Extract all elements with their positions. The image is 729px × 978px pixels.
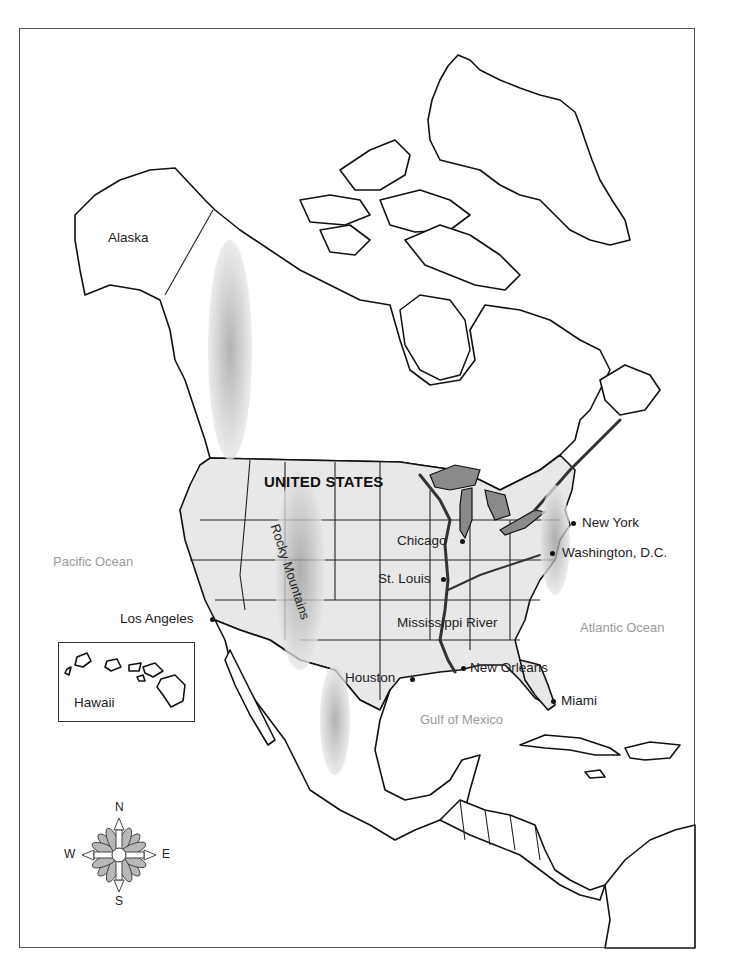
compass-west: W	[64, 847, 75, 861]
city-dot-st-louis	[441, 577, 446, 582]
city-los-angeles: Los Angeles	[120, 611, 194, 626]
arctic-island	[340, 140, 410, 190]
hawaii-islands	[59, 643, 196, 723]
baffin-island	[405, 225, 520, 290]
city-new-orleans: New Orleans	[470, 660, 548, 675]
arctic-island	[380, 190, 470, 232]
arctic-island	[300, 195, 370, 225]
united-states-label: UNITED STATES	[264, 473, 384, 490]
alaska-label: Alaska	[108, 230, 149, 245]
mississippi-river-label: Mississippi River	[397, 615, 498, 630]
compass-east: E	[162, 847, 170, 861]
city-dot-washington-dc	[550, 551, 555, 556]
city-dot-new-orleans	[461, 666, 466, 671]
pacific-ocean-label: Pacific Ocean	[53, 554, 133, 569]
gulf-of-mexico-label: Gulf of Mexico	[420, 712, 503, 727]
city-houston: Houston	[345, 670, 395, 685]
hawaii-label: Hawaii	[74, 695, 115, 710]
appalachians-shading	[540, 485, 570, 595]
arctic-island	[320, 225, 370, 255]
city-miami: Miami	[561, 693, 597, 708]
compass-south: S	[115, 894, 123, 908]
city-new-york: New York	[582, 515, 639, 530]
rocky-mountains-shading	[208, 240, 252, 460]
city-dot-miami	[551, 699, 556, 704]
city-dot-new-york	[571, 521, 576, 526]
central-america	[440, 800, 605, 900]
south-america	[605, 825, 695, 948]
compass-rose: N S W E	[64, 800, 174, 910]
city-dot-houston	[410, 677, 415, 682]
atlantic-ocean-label: Atlantic Ocean	[580, 620, 665, 635]
city-washington-dc: Washington, D.C.	[562, 545, 667, 560]
hispaniola	[625, 742, 680, 760]
city-dot-los-angeles	[210, 617, 215, 622]
city-dot-chicago	[460, 539, 465, 544]
city-chicago: Chicago	[397, 533, 447, 548]
compass-north: N	[115, 800, 124, 814]
jamaica	[585, 770, 605, 778]
hawaii-inset: Hawaii	[58, 642, 195, 722]
city-st-louis: St. Louis	[378, 571, 431, 586]
cuba	[520, 735, 620, 755]
